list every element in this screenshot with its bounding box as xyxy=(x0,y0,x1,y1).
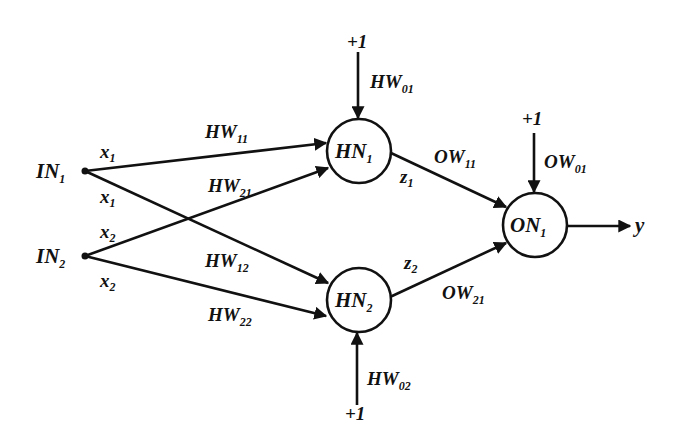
neural-network-diagram: IN1 IN2 x1 x1 x2 x2 HW11 HW21 HW12 HW22 … xyxy=(0,0,682,444)
weight-label-hw21: HW21 xyxy=(207,175,252,200)
hidden-output-z2: z2 xyxy=(403,252,417,276)
bias-weight-ow01: OW01 xyxy=(544,151,587,176)
final-output-y: y xyxy=(632,213,645,237)
input-label-in1: IN1 xyxy=(35,159,65,186)
weight-label-ow21: OW21 xyxy=(442,282,485,307)
weight-label-ow11: OW11 xyxy=(434,146,476,171)
input-node-in1-dot xyxy=(82,168,89,175)
edge-in2-hn1 xyxy=(85,168,328,256)
signal-label-x2-bottom: x2 xyxy=(99,270,116,294)
signal-label-x1-top: x1 xyxy=(99,141,116,165)
input-label-in2: IN2 xyxy=(35,244,65,271)
weight-label-hw12: HW12 xyxy=(204,250,249,275)
weight-label-hw22: HW22 xyxy=(207,304,252,329)
bias-value-hn2: +1 xyxy=(345,403,365,424)
bias-weight-hw01: HW01 xyxy=(369,71,414,96)
signal-label-x1-bottom: x1 xyxy=(99,186,116,210)
signal-label-x2-top: x2 xyxy=(99,221,116,245)
input-node-in2-dot xyxy=(82,253,89,260)
bias-weight-hw02: HW02 xyxy=(366,368,411,393)
weight-label-hw11: HW11 xyxy=(204,121,248,146)
hidden-output-z1: z1 xyxy=(399,166,413,190)
edge-in1-hn1 xyxy=(85,143,326,171)
bias-value-on1: +1 xyxy=(522,108,542,129)
bias-value-hn1: +1 xyxy=(347,31,367,52)
